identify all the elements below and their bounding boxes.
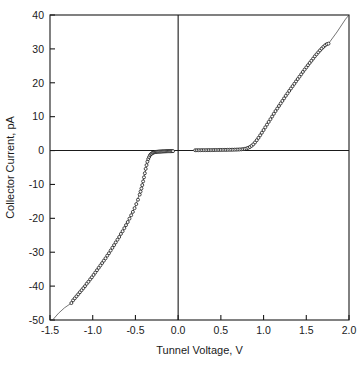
y-tick-label: 0 xyxy=(38,144,44,156)
x-tick-label: 1.5 xyxy=(299,324,314,336)
data-point-marker xyxy=(121,230,124,233)
x-tick-label: 0.0 xyxy=(171,324,186,336)
x-tick-label: 2.0 xyxy=(342,324,357,336)
y-tick-label: 10 xyxy=(32,110,44,122)
data-point-marker xyxy=(145,164,148,167)
data-point-marker xyxy=(126,221,129,224)
data-point-marker xyxy=(142,180,145,183)
data-point-marker xyxy=(144,167,147,170)
x-tick-label: -0.5 xyxy=(126,324,144,336)
data-point-marker xyxy=(139,190,142,193)
data-point-marker xyxy=(133,207,136,210)
y-tick-label: 20 xyxy=(32,77,44,89)
data-point-marker xyxy=(138,193,141,196)
y-tick-label: -40 xyxy=(29,280,44,292)
data-point-marker xyxy=(327,42,330,45)
plot-canvas: -1.5-1.0-0.50.00.51.01.52.0-50-40-30-20-… xyxy=(0,0,363,368)
y-tick-label: -20 xyxy=(29,212,44,224)
data-point-marker xyxy=(128,217,131,220)
iv-characteristic-figure: -1.5-1.0-0.50.00.51.01.52.0-50-40-30-20-… xyxy=(0,0,363,368)
x-axis-title: Tunnel Voltage, V xyxy=(156,344,243,356)
data-point-marker xyxy=(136,198,139,201)
x-tick-label: 0.5 xyxy=(214,324,229,336)
y-tick-label: -50 xyxy=(29,314,44,326)
data-point-marker xyxy=(172,150,175,153)
data-point-marker xyxy=(135,203,138,206)
y-axis-title: Collector Current, pA xyxy=(4,115,16,218)
data-point-marker xyxy=(143,172,146,175)
data-point-marker xyxy=(142,176,145,179)
data-point-marker xyxy=(140,187,143,190)
data-point-marker xyxy=(131,210,134,213)
data-point-marker xyxy=(130,214,133,217)
y-tick-label: -10 xyxy=(29,178,44,190)
data-series-markers xyxy=(70,42,330,304)
x-tick-label: 1.0 xyxy=(256,324,271,336)
fit-line xyxy=(53,151,173,320)
data-point-marker xyxy=(123,227,126,230)
data-point-marker xyxy=(118,235,121,238)
y-tick-label: 30 xyxy=(32,43,44,55)
data-point-marker xyxy=(141,184,144,187)
fit-line xyxy=(195,15,349,150)
data-point-marker xyxy=(125,224,128,227)
y-tick-label: 40 xyxy=(32,9,44,21)
x-tick-label: -1.0 xyxy=(84,324,102,336)
y-tick-label: -30 xyxy=(29,246,44,258)
